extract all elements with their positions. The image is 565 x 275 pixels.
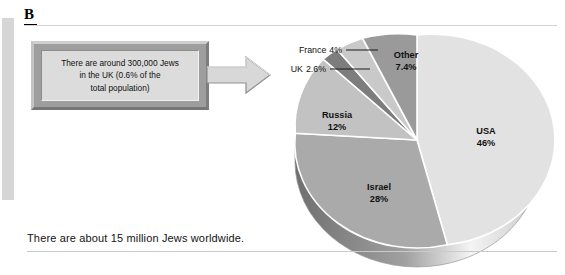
pie-label-usa-value: 46% [477, 138, 495, 148]
callout-box-frame: There are around 300,000 Jews in the UK … [31, 41, 209, 110]
pie-label-usa-name: USA [476, 126, 496, 136]
pie-label-russia-name: Russia [322, 110, 353, 120]
callout-text: There are around 300,000 Jews in the UK … [55, 57, 185, 95]
section-letter: B [24, 7, 34, 22]
bottom-divider-rule [27, 251, 557, 252]
pie-label-other-name: Other [394, 50, 419, 60]
left-margin-bar [2, 18, 14, 200]
callout-box: There are around 300,000 Jews in the UK … [31, 41, 209, 110]
pie-chart: USA 46% Other 7.4% Russia 12% Israel 28%… [258, 26, 565, 275]
pie-label-uk: UK2.6% [291, 64, 326, 74]
callout-box-inner: There are around 300,000 Jews in the UK … [41, 50, 199, 101]
pie-label-france: France4% [299, 45, 342, 55]
pie-label-israel-name: Israel [367, 182, 391, 192]
pie-slices [295, 34, 555, 248]
bottom-caption: There are about 15 million Jews worldwid… [27, 232, 244, 244]
pie-label-other-value: 7.4% [396, 62, 417, 72]
pie-label-israel-value: 28% [370, 194, 388, 204]
pie-label-russia-value: 12% [328, 122, 346, 132]
